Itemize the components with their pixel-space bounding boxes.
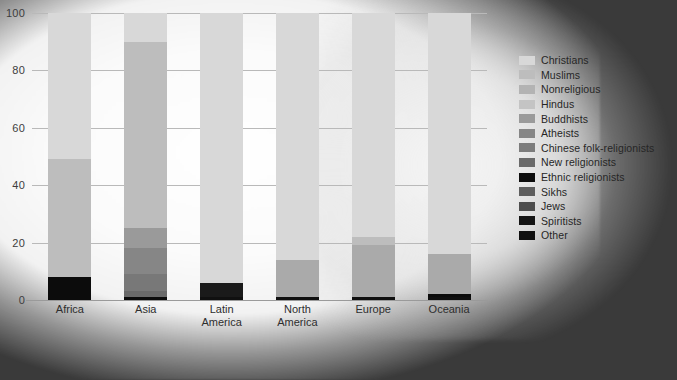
y-axis-tick-label: 60: [12, 122, 25, 134]
bar-africa[interactable]: [48, 13, 91, 300]
legend-swatch-icon: [519, 187, 535, 196]
legend-item[interactable]: Muslims: [519, 68, 655, 83]
legend-label: Atheists: [541, 127, 579, 139]
legend-swatch-icon: [519, 158, 535, 167]
x-axis-label: Africa: [27, 303, 113, 316]
bar-segment-other: [428, 297, 471, 300]
x-axis-label-line: North: [254, 303, 340, 316]
bar-segment-ethnic-religionists: [428, 294, 471, 297]
bar-segment-atheists: [124, 248, 167, 274]
x-axis-line: [26, 300, 488, 301]
bar-north-america[interactable]: [276, 13, 319, 300]
legend-label: Muslims: [541, 69, 580, 81]
x-axis-labels: AfricaAsiaLatinAmericaNorthAmericaEurope…: [32, 303, 487, 333]
y-axis-tick-label: 0: [19, 294, 25, 306]
legend-item[interactable]: Other: [519, 228, 655, 243]
legend-swatch-icon: [519, 216, 535, 225]
x-axis-label-line: America: [179, 316, 265, 329]
legend-swatch-icon: [519, 173, 535, 182]
legend-item[interactable]: Buddhists: [519, 111, 655, 126]
x-axis-label: NorthAmerica: [254, 303, 340, 328]
bar-segment-christians: [48, 13, 91, 159]
bar-segment-other: [276, 297, 319, 300]
x-axis-label-line: Latin: [179, 303, 265, 316]
x-axis-label-line: America: [254, 316, 340, 329]
plot-area: 020406080100: [32, 13, 487, 300]
bar-segment-muslims: [124, 42, 167, 229]
bar-segment-nonreligious: [428, 254, 471, 294]
bar-group: [32, 13, 487, 300]
legend-label: Spiritists: [541, 215, 582, 227]
legend-swatch-icon: [519, 231, 535, 240]
legend-label: Christians: [541, 54, 589, 66]
x-axis-label: LatinAmerica: [179, 303, 265, 328]
bar-segment-christians: [352, 13, 395, 237]
legend-item[interactable]: Sikhs: [519, 184, 655, 199]
x-axis-label-line: Africa: [27, 303, 113, 316]
bar-segment-christians: [276, 13, 319, 260]
bar-segment-other: [352, 297, 395, 300]
legend-label: Ethnic religionists: [541, 171, 625, 183]
bar-segment-new-religionists: [124, 291, 167, 297]
legend-label: Chinese folk-religionists: [541, 142, 654, 154]
bar-segment-ethnic-religionists: [124, 297, 167, 300]
legend-swatch-icon: [519, 85, 535, 94]
legend-swatch-icon: [519, 100, 535, 109]
y-axis-tick-label: 80: [12, 64, 25, 76]
bar-segment-nonreligious: [276, 260, 319, 297]
legend-item[interactable]: Jews: [519, 199, 655, 214]
legend-item[interactable]: Chinese folk-religionists: [519, 141, 655, 156]
x-axis-label-line: Oceania: [406, 303, 492, 316]
legend-item[interactable]: Christians: [519, 53, 655, 68]
y-axis-tick-label: 100: [6, 7, 25, 19]
bar-asia[interactable]: [124, 13, 167, 300]
bar-latin-america[interactable]: [200, 13, 243, 300]
bar-segment-muslims: [352, 237, 395, 246]
bar-segment-muslims: [48, 159, 91, 277]
legend-swatch-icon: [519, 56, 535, 65]
bar-segment-ethnic-religionists: [48, 277, 91, 300]
bar-segment-christians: [428, 13, 471, 254]
bar-oceania[interactable]: [428, 13, 471, 300]
chart-legend: ChristiansMuslimsNonreligiousHindusBuddh…: [519, 53, 655, 243]
legend-swatch-icon: [519, 114, 535, 123]
legend-label: Jews: [541, 200, 565, 212]
legend-item[interactable]: Nonreligious: [519, 82, 655, 97]
x-axis-label: Oceania: [406, 303, 492, 316]
y-axis-tick-label: 40: [12, 179, 25, 191]
x-axis-label-line: Europe: [330, 303, 416, 316]
legend-swatch-icon: [519, 143, 535, 152]
bar-segment-chinese-folk-religionists: [124, 274, 167, 291]
bar-segment-buddhists: [124, 228, 167, 248]
y-axis-tick-label: 20: [12, 237, 25, 249]
x-axis-label: Europe: [330, 303, 416, 316]
legend-item[interactable]: New religionists: [519, 155, 655, 170]
legend-item[interactable]: Hindus: [519, 97, 655, 112]
legend-label: Hindus: [541, 98, 574, 110]
bar-segment-christians: [200, 13, 243, 283]
legend-item[interactable]: Spiritists: [519, 214, 655, 229]
bar-europe[interactable]: [352, 13, 395, 300]
legend-swatch-icon: [519, 70, 535, 79]
legend-item[interactable]: Atheists: [519, 126, 655, 141]
legend-swatch-icon: [519, 129, 535, 138]
legend-label: Nonreligious: [541, 83, 601, 95]
bar-segment-christians: [124, 13, 167, 42]
bar-segment-nonreligious: [352, 245, 395, 297]
x-axis-label: Asia: [103, 303, 189, 316]
bar-segment-spiritists: [200, 283, 243, 297]
bar-segment-other: [200, 297, 243, 300]
legend-item[interactable]: Ethnic religionists: [519, 170, 655, 185]
legend-label: Buddhists: [541, 113, 588, 125]
legend-label: New religionists: [541, 156, 616, 168]
legend-swatch-icon: [519, 202, 535, 211]
legend-label: Other: [541, 229, 568, 241]
legend-label: Sikhs: [541, 186, 567, 198]
x-axis-label-line: Asia: [103, 303, 189, 316]
